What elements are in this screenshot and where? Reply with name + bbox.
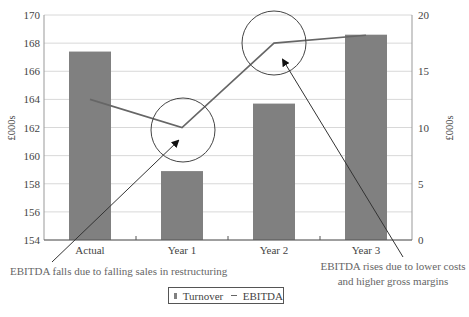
x-category-label: Year 1 (168, 244, 197, 256)
left-tick-label: 156 (24, 206, 41, 218)
x-axis-categories: ActualYear 1Year 2Year 3 (75, 244, 380, 256)
ebitda-line (90, 35, 366, 127)
left-tick-label: 158 (24, 178, 41, 190)
right-tick-label: 5 (418, 178, 424, 190)
left-tick-label: 164 (24, 93, 41, 105)
legend-ebitda: EBITDA (243, 290, 283, 302)
bar-year-1 (161, 171, 203, 240)
left-tick-label: 166 (24, 65, 41, 77)
bar-year-3 (345, 35, 387, 240)
legend-turnover: Turnover (183, 290, 224, 302)
annotation-year2-line1: EBITDA rises due to lower costs (318, 259, 468, 274)
right-tick-label: 10 (418, 122, 430, 134)
highlight-circle-year1 (151, 98, 215, 162)
annotation-year2-line2: and higher gross margins (318, 274, 468, 289)
x-category-label: Year 2 (260, 244, 289, 256)
legend: Turnover EBITDA (168, 287, 284, 304)
right-tick-label: 0 (418, 234, 424, 246)
left-axis-label: £000s (6, 115, 17, 140)
x-category-label: Actual (75, 244, 104, 256)
left-axis-ticks: 154156158160162164166168170 (24, 9, 41, 246)
turnover-swatch-icon (174, 293, 177, 299)
x-category-label: Year 3 (352, 244, 381, 256)
right-axis-label: £000s (444, 115, 455, 140)
turnover-bars (69, 35, 387, 240)
bar-year-2 (253, 104, 295, 240)
left-tick-label: 170 (24, 9, 41, 21)
left-tick-label: 162 (24, 122, 41, 134)
right-axis-ticks: 05101520 (418, 9, 430, 246)
ebitda-line-swatch-icon (231, 295, 236, 297)
right-tick-label: 20 (418, 9, 430, 21)
left-tick-label: 168 (24, 37, 41, 49)
left-tick-label: 154 (24, 234, 41, 246)
right-tick-label: 15 (418, 65, 430, 77)
annotation-year1: EBITDA falls due to falling sales in res… (10, 264, 227, 279)
annotation-year2: EBITDA rises due to lower costs and high… (318, 259, 468, 289)
left-tick-label: 160 (24, 150, 41, 162)
